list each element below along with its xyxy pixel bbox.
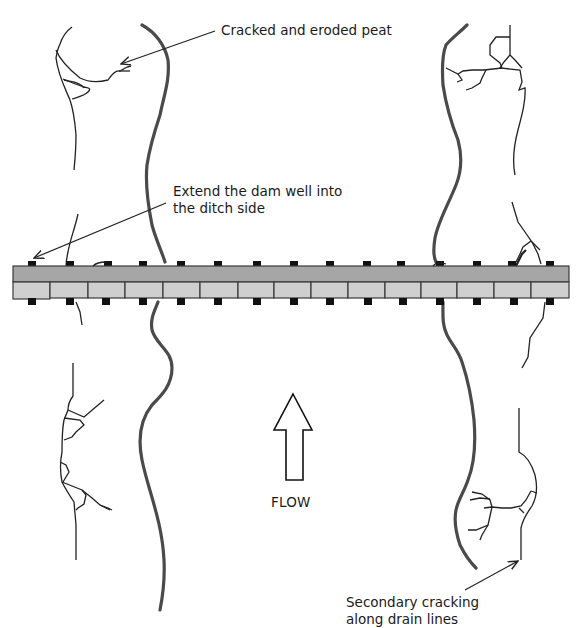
flow-label: FLOW xyxy=(271,494,311,510)
dam-edge-cracks xyxy=(93,250,526,266)
ditch-dam-diagram xyxy=(0,0,583,628)
annotation-secondary-cracking-line2: along drain lines xyxy=(346,611,458,628)
dam-upper-board xyxy=(13,266,569,282)
left-bank-cracks-upper xyxy=(56,27,131,268)
arrow-extend-dam xyxy=(34,203,166,258)
annotation-extend-dam-line1: Extend the dam well into xyxy=(173,183,342,200)
flow-arrow-icon xyxy=(274,394,312,480)
annotation-secondary-cracking-line1: Secondary cracking xyxy=(346,594,479,611)
left-ditch-edge-lower xyxy=(140,302,172,610)
left-ditch-edge-upper xyxy=(142,25,168,262)
left-bank-cracks-lower xyxy=(60,302,112,560)
dam-posts-bottom xyxy=(28,298,554,305)
right-ditch-edge-lower xyxy=(443,302,476,568)
right-bank-cracks-lower xyxy=(468,302,545,560)
annotation-cracked-peat: Cracked and eroded peat xyxy=(221,22,392,39)
annotation-extend-dam-line2: the ditch side xyxy=(173,200,265,217)
dam-lower-boards xyxy=(13,282,569,299)
right-ditch-edge-upper xyxy=(434,25,467,262)
